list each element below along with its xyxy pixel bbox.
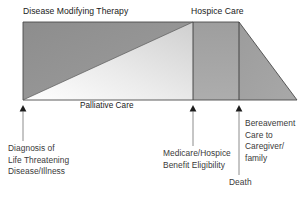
pointer-death xyxy=(236,105,243,175)
label-medicare-hospice-milestone: Medicare/Hospice Benefit Eligibility xyxy=(163,148,231,171)
arrow-up-icon xyxy=(20,105,27,112)
arrow-up-icon xyxy=(236,105,243,112)
label-diagnosis-milestone: Diagnosis of Life Threatening Disease/Il… xyxy=(8,143,69,178)
label-palliative-care: Palliative Care xyxy=(80,100,134,112)
label-hospice-care: Hospice Care xyxy=(191,6,244,18)
pointer-diagnosis xyxy=(20,105,27,141)
label-disease-modifying-therapy: Disease Modifying Therapy xyxy=(23,6,128,18)
diagram-canvas: Disease Modifying Therapy Hospice Care P… xyxy=(0,0,306,197)
pointer-medicare-hospice xyxy=(190,105,197,146)
label-death-milestone: Death xyxy=(229,177,252,189)
arrow-up-icon xyxy=(190,105,197,112)
hospice-care-region xyxy=(193,22,239,100)
label-bereavement-milestone: Bereavement Care to Caregiver/ family xyxy=(245,118,295,164)
